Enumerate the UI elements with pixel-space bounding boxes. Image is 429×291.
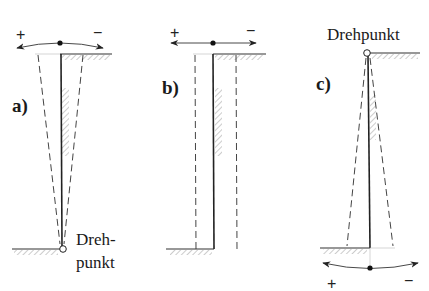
- ground-bottom-b: [166, 249, 214, 255]
- translation-arrow-icon-b: [171, 40, 256, 45]
- panel-a: a) + − Dreh- punkt: [12, 24, 116, 272]
- wall-movement-diagram: a) + − Dreh- punkt b) +: [0, 0, 429, 291]
- pivot-label-a-line2: punkt: [76, 253, 115, 272]
- ground-bottom-a: [12, 249, 60, 255]
- panel-b: b) + −: [162, 22, 266, 255]
- ground-top-a: [35, 54, 112, 156]
- pivot-circle-icon-c: [364, 50, 371, 57]
- rotation-arrow-icon-a: [17, 40, 103, 48]
- dashed-position-minus-c: [370, 58, 393, 246]
- panel-c-label: c): [316, 73, 331, 95]
- wall-b: [213, 54, 214, 249]
- minus-sign-b: −: [246, 22, 255, 39]
- panel-a-label: a): [12, 95, 28, 117]
- ground-top-c: [370, 53, 420, 140]
- plus-sign-b: +: [170, 24, 179, 41]
- wall-c: [368, 56, 370, 248]
- plus-sign-c: +: [327, 275, 336, 291]
- ground-top-b: [193, 54, 266, 156]
- panel-c: c) Drehpunkt + −: [316, 25, 420, 291]
- pivot-circle-icon-a: [60, 246, 67, 253]
- pivot-label-c: Drehpunkt: [327, 25, 400, 44]
- dashed-position-plus-b: [195, 55, 196, 249]
- dashed-position-minus-b: [236, 55, 237, 249]
- minus-sign-c: −: [404, 272, 413, 289]
- dashed-position-plus-c: [347, 58, 366, 246]
- panel-b-label: b): [162, 77, 179, 99]
- dashed-position-plus-a: [38, 55, 60, 244]
- pivot-label-a-line1: Dreh-: [76, 230, 116, 249]
- wall-a: [61, 54, 62, 247]
- plus-sign-a: +: [16, 26, 25, 43]
- minus-sign-a: −: [93, 24, 102, 41]
- rotation-arrow-icon-c: [323, 263, 418, 271]
